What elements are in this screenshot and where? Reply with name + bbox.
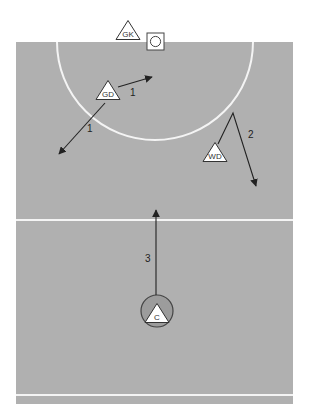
court xyxy=(16,0,293,404)
move-3-label: 3 xyxy=(145,253,151,264)
netball-court-diagram: 1123 GKGDWDC xyxy=(0,0,310,411)
move-2-label: 2 xyxy=(248,129,254,140)
move-1b-label: 1 xyxy=(87,123,93,134)
player-label: C xyxy=(154,313,160,322)
player-label: GD xyxy=(102,90,114,99)
player-gk: GK xyxy=(116,21,140,40)
move-1a-label: 1 xyxy=(130,87,136,98)
player-label: GK xyxy=(122,30,134,39)
player-label: WD xyxy=(208,152,222,161)
goal-post-box xyxy=(147,33,164,50)
court-surface xyxy=(16,42,293,404)
